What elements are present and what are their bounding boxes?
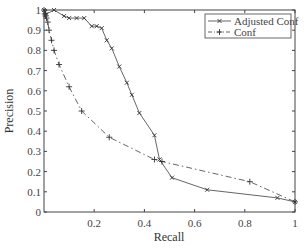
plus-marker-icon xyxy=(41,7,47,13)
plus-marker-icon xyxy=(151,156,157,162)
plus-marker-icon xyxy=(106,134,112,140)
y-axis-label: Precision xyxy=(2,89,16,134)
x-marker-icon xyxy=(130,93,134,97)
x-marker-icon xyxy=(100,26,104,30)
x-tick-label: 0.6 xyxy=(188,217,202,229)
plus-marker-icon xyxy=(51,47,57,53)
y-tick-label: 0.7 xyxy=(27,65,41,77)
plus-marker-icon xyxy=(45,19,51,25)
y-tick-label: 0.4 xyxy=(27,125,41,137)
plus-marker-icon xyxy=(292,199,298,205)
x-marker-icon xyxy=(105,38,109,42)
x-tick-label: 0.8 xyxy=(238,217,252,229)
legend: Adjusted ConfConf xyxy=(205,14,299,38)
y-tick-label: 0.2 xyxy=(27,166,41,178)
precision-recall-chart: 00.10.20.30.40.50.60.70.80.910.20.40.60.… xyxy=(0,0,304,249)
y-tick-label: 0.8 xyxy=(27,44,41,56)
x-tick-label: 0.4 xyxy=(138,217,152,229)
y-tick-label: 0.5 xyxy=(27,105,41,117)
x-marker-icon xyxy=(170,176,174,180)
x-marker-icon xyxy=(137,111,141,115)
legend-entry-label: Conf xyxy=(234,26,256,38)
plus-marker-icon xyxy=(66,84,72,90)
x-marker-icon xyxy=(62,14,66,18)
x-tick-label: 1 xyxy=(292,217,298,229)
y-tick-label: 0.9 xyxy=(27,24,41,36)
y-tick-label: 0.3 xyxy=(27,145,41,157)
plus-marker-icon xyxy=(46,27,52,33)
plus-marker-icon xyxy=(247,179,253,185)
x-marker-icon xyxy=(110,46,114,50)
y-tick-label: 0 xyxy=(36,206,42,218)
x-axis-label: Recall xyxy=(154,230,185,244)
x-marker-icon xyxy=(117,65,121,69)
x-marker-icon xyxy=(125,81,129,85)
plus-marker-icon xyxy=(49,37,55,43)
y-tick-label: 0.1 xyxy=(27,186,41,198)
x-tick-label: 0.2 xyxy=(87,217,101,229)
y-tick-label: 0.6 xyxy=(27,85,41,97)
y-tick-label: 1 xyxy=(36,4,42,16)
plus-marker-icon xyxy=(56,62,62,68)
